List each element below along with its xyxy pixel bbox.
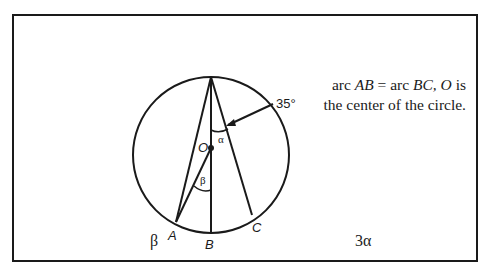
caption-line-2: the center of the circle. xyxy=(296,95,466,115)
caption-line-1: arc AB = arc BC, O is xyxy=(296,75,466,95)
angle-pointer-arrowhead xyxy=(226,119,236,126)
radius-o-a xyxy=(176,148,211,222)
center-point-o xyxy=(208,145,214,151)
label-35-degrees: 35° xyxy=(276,96,296,111)
label-o: O xyxy=(198,140,208,155)
column-a-value: β xyxy=(150,232,158,250)
label-c: C xyxy=(252,220,262,235)
problem-caption: arc AB = arc BC, O is the center of the … xyxy=(296,75,466,115)
label-alpha: α xyxy=(218,133,224,145)
chord-top-c xyxy=(211,77,252,215)
label-b: B xyxy=(205,237,214,252)
label-a: A xyxy=(167,228,177,243)
column-b-value: 3α xyxy=(355,232,371,250)
alpha-arc xyxy=(211,129,228,132)
circle-geometry-diagram: O A B C α β 35° xyxy=(0,0,488,273)
beta-arc xyxy=(194,186,211,191)
label-beta: β xyxy=(200,174,206,186)
